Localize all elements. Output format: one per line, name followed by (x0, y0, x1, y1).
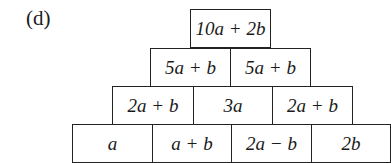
pyramid-cell-top: 10a + 2b (190, 9, 271, 48)
pyramid-cell-r3-1: 2a + b (112, 86, 194, 125)
figure-label: (d) (26, 6, 51, 31)
pyramid-cell-r4-1: a (72, 124, 153, 163)
pyramid-cell-r3-3: 2a + b (272, 86, 353, 125)
pyramid-cell-r4-2: a + b (152, 124, 232, 163)
pyramid-cell-r4-4: 2b (311, 124, 391, 163)
pyramid-cell-r4-3: 2a − b (231, 124, 312, 163)
pyramid-cell-r2-2: 5a + b (230, 48, 311, 87)
pyramid-cell-r3-2: 3a (193, 86, 273, 125)
pyramid-cell-r2-1: 5a + b (150, 48, 231, 87)
